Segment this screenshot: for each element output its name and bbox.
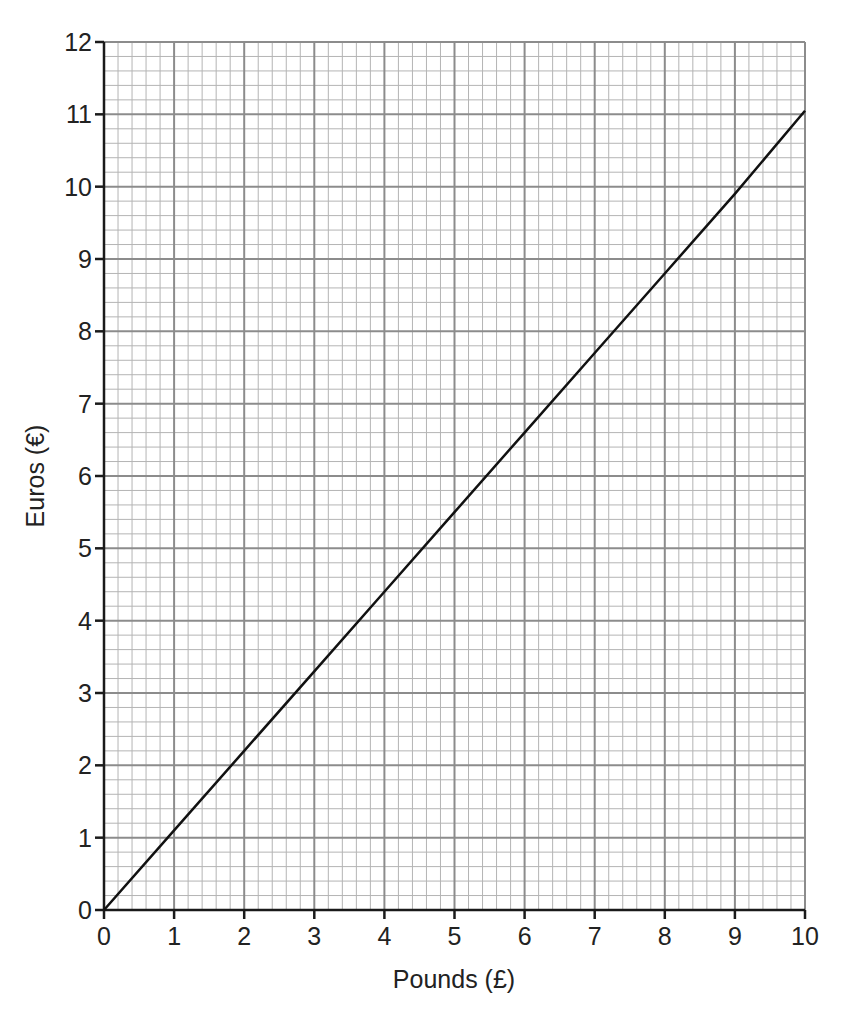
y-tick-label: 12 (64, 28, 92, 56)
x-axis-tick-labels: 012345678910 (97, 922, 819, 950)
x-tick-label: 2 (237, 922, 251, 950)
y-tick-label: 5 (78, 534, 92, 562)
x-tick-label: 6 (518, 922, 532, 950)
x-tick-label: 5 (448, 922, 462, 950)
y-tick-label: 2 (78, 751, 92, 779)
y-axis-title: Euros (€) (21, 425, 49, 528)
y-tick-label: 11 (66, 100, 92, 128)
x-tick-label: 1 (167, 922, 181, 950)
y-tick-label: 7 (78, 390, 92, 418)
y-tick-label: 10 (64, 173, 92, 201)
y-tick-label: 9 (78, 245, 92, 273)
x-tick-label: 3 (307, 922, 321, 950)
axes (95, 42, 805, 919)
x-tick-label: 7 (588, 922, 602, 950)
y-tick-label: 4 (78, 607, 92, 635)
x-tick-label: 8 (658, 922, 672, 950)
x-tick-label: 0 (97, 922, 111, 950)
x-tick-label: 4 (377, 922, 391, 950)
x-axis-title: Pounds (£) (393, 965, 515, 993)
conversion-chart: 012345678910 0123456789101112 Pounds (£)… (0, 0, 847, 1011)
x-tick-label: 10 (791, 922, 819, 950)
y-tick-label: 6 (78, 462, 92, 490)
y-tick-label: 1 (78, 824, 92, 852)
y-tick-label: 8 (78, 317, 92, 345)
y-axis-tick-labels: 0123456789101112 (64, 28, 92, 924)
x-tick-label: 9 (728, 922, 742, 950)
y-tick-label: 3 (78, 679, 92, 707)
y-tick-label: 0 (78, 896, 92, 924)
